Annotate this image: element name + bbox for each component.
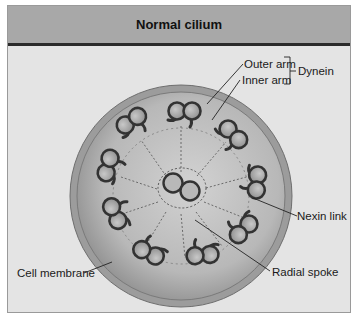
label-cell-membrane: Cell membrane (17, 267, 95, 279)
cilium-cross-section: Outer arm Inner arm Dynein Nexin link Ra… (0, 0, 359, 322)
label-dynein: Dynein (298, 65, 334, 77)
label-radial-spoke: Radial spoke (272, 266, 338, 278)
label-inner-arm: Inner arm (242, 74, 291, 86)
central-tubule (181, 182, 200, 201)
label-outer-arm: Outer arm (244, 58, 296, 70)
label-nexin-link: Nexin link (297, 210, 347, 222)
